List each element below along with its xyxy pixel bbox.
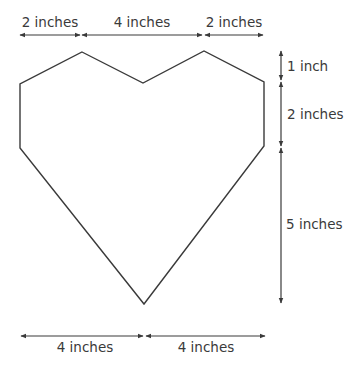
right-dimension-label-2inches: 2 inches [287,106,344,122]
top-dimension-label-right: 2 inches [206,14,263,30]
bottom-dimension-label-right: 4 inches [178,339,235,355]
top-dimension-label-middle: 4 inches [114,14,171,30]
heart-shape [20,51,264,304]
right-dimension-label-5inches: 5 inches [286,216,343,232]
bottom-dimension-label-left: 4 inches [57,339,114,355]
heart-dimension-diagram: 2 inches 4 inches 2 inches 1 inch 2 inch… [0,0,355,366]
right-dimension-label-1inch: 1 inch [287,58,328,74]
top-dimension-label-left: 2 inches [22,14,79,30]
